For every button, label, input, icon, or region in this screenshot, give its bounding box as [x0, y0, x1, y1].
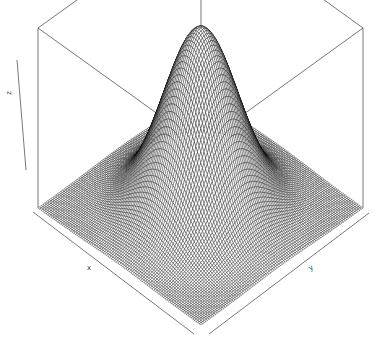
x-axis-label: x: [87, 264, 91, 272]
z-axis-label: z: [5, 91, 13, 95]
box-edge-top-back-right: [201, 0, 363, 28]
surface-plot: [0, 0, 380, 348]
gaussian-surface-mesh: [38, 26, 363, 325]
z-axis-line: [17, 60, 26, 170]
box-edge-top-back-left: [38, 0, 201, 28]
